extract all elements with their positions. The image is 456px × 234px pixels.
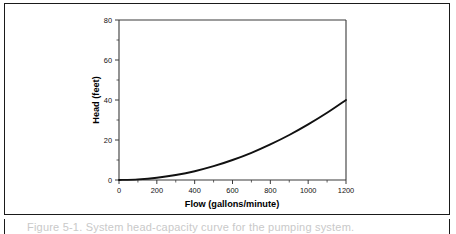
x-tick-label: 400 xyxy=(188,186,200,195)
system-head-curve-chart: 020406080 020040060080010001200 Head (fe… xyxy=(5,4,451,213)
chart-plot-area: 020406080 020040060080010001200 Head (fe… xyxy=(5,4,451,213)
x-tick-label: 0 xyxy=(117,186,121,195)
x-tick-label: 800 xyxy=(264,186,276,195)
x-axis-ticks: 020040060080010001200 xyxy=(117,180,354,195)
head-capacity-curve xyxy=(119,100,346,180)
y-tick-label: 80 xyxy=(104,16,112,25)
figure-frame: 020406080 020040060080010001200 Head (fe… xyxy=(4,3,450,215)
figure-caption-strip: Figure 5-1. System head-capacity curve f… xyxy=(4,219,450,234)
x-tick-label: 200 xyxy=(151,186,163,195)
y-tick-label: 60 xyxy=(104,56,112,65)
y-tick-label: 40 xyxy=(104,96,112,105)
x-tick-label: 1200 xyxy=(338,186,354,195)
x-tick-label: 1000 xyxy=(300,186,316,195)
x-axis-title: Flow (gallons/minute) xyxy=(185,199,279,209)
axes-frame xyxy=(119,20,346,180)
y-tick-label: 0 xyxy=(108,176,112,185)
y-tick-label: 20 xyxy=(104,136,112,145)
y-axis-ticks: 020406080 xyxy=(104,16,119,185)
y-axis-title: Head (feet) xyxy=(91,76,101,123)
figure-caption: Figure 5-1. System head-capacity curve f… xyxy=(27,221,354,233)
x-tick-label: 600 xyxy=(226,186,238,195)
